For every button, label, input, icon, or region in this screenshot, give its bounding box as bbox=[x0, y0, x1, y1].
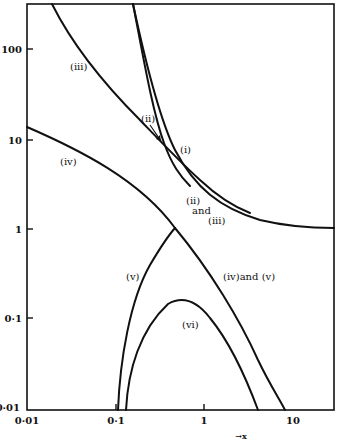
curve-v bbox=[118, 228, 175, 410]
curve-i bbox=[133, 4, 334, 228]
log-log-chart: 100 10 1 0·1 0·01 0·01 0·1 1 10 →x bbox=[0, 0, 337, 443]
y-axis: 100 10 1 0·1 0·01 bbox=[0, 44, 33, 413]
curve-vi bbox=[126, 300, 258, 410]
x-tick-label: 0·01 bbox=[15, 415, 39, 426]
y-tick-label: 0·1 bbox=[5, 313, 22, 324]
y-tick-label: 100 bbox=[1, 44, 22, 55]
label-i: (i) bbox=[180, 144, 191, 155]
x-tick-label: 1 bbox=[201, 415, 208, 426]
x-axis-label: →x bbox=[235, 431, 247, 441]
curve-labels: (iii) (ii) (i) (iv) (ii) and (iii) (v) (… bbox=[60, 61, 275, 330]
label-iv-and-v: (iv)and (v) bbox=[223, 271, 275, 282]
label-vi: (vi) bbox=[182, 319, 199, 330]
y-tick-label: 1 bbox=[15, 224, 22, 235]
y-tick-label: 0·01 bbox=[0, 402, 20, 413]
label-iv: (iv) bbox=[60, 156, 77, 167]
label-ii: (ii) bbox=[141, 113, 155, 124]
x-tick-label: 10 bbox=[286, 415, 300, 426]
label-iii-and: (iii) bbox=[208, 215, 225, 226]
label-v: (v) bbox=[126, 271, 140, 282]
x-tick-label: 0·1 bbox=[107, 415, 124, 426]
curve-ii bbox=[133, 4, 190, 186]
label-iii-top: (iii) bbox=[70, 61, 87, 72]
curve-iv bbox=[27, 127, 175, 228]
curve-iii bbox=[52, 4, 250, 213]
y-tick-label: 10 bbox=[8, 135, 22, 146]
